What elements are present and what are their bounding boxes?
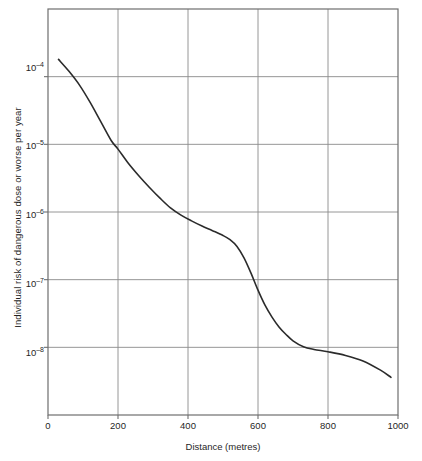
y-tick-exponent: –8 [36, 346, 44, 353]
x-tick-label-200: 200 [88, 420, 148, 431]
y-tick-label-1e-8: 10–8 [0, 348, 44, 358]
y-tick-exponent: –7 [36, 277, 44, 284]
y-tick-label-1e-6: 10–6 [0, 210, 44, 220]
x-tick-label-1000: 1000 [368, 420, 422, 431]
x-tick-label-800: 800 [298, 420, 358, 431]
y-tick-mantissa: 10 [26, 140, 37, 151]
y-tick-mantissa: 10 [26, 62, 37, 73]
y-tick-label-1e-4: 10–4 [0, 63, 44, 73]
y-tick-exponent: –4 [36, 61, 44, 68]
x-tick-label-600: 600 [228, 420, 288, 431]
y-tick-label-1e-5: 10–5 [0, 141, 44, 151]
y-tick-exponent: –5 [36, 139, 44, 146]
axis-ticks [44, 77, 398, 419]
y-tick-mantissa: 10 [26, 347, 37, 358]
x-axis-label: Distance (metres) [48, 441, 398, 452]
x-tick-label-0: 0 [18, 420, 78, 431]
x-tick-label-400: 400 [158, 420, 218, 431]
plot-area [0, 0, 422, 461]
y-tick-mantissa: 10 [26, 209, 37, 220]
y-tick-mantissa: 10 [26, 278, 37, 289]
y-tick-exponent: –6 [36, 208, 44, 215]
chart-figure: Individual risk of dangerous dose or wor… [0, 0, 422, 461]
y-tick-label-1e-7: 10–7 [0, 279, 44, 289]
risk-curve-line [59, 59, 392, 377]
gridlines [48, 9, 398, 415]
